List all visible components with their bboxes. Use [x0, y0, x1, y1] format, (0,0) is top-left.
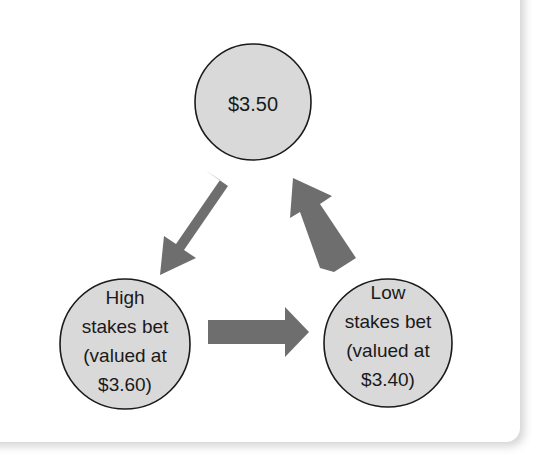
node-low-stakes: Low stakes bet (valued at $3.40) — [324, 279, 452, 407]
node-top-label: $3.50 — [228, 93, 278, 115]
node-high-line-1: High — [105, 287, 144, 308]
node-high-line-4: $3.60) — [98, 374, 152, 395]
node-low-line-3: (valued at — [346, 340, 430, 361]
node-high-stakes: High stakes bet (valued at $3.60) — [60, 279, 190, 409]
node-high-line-3: (valued at — [83, 345, 167, 366]
cycle-diagram: $3.50 High stakes bet (valued at $3.60) … — [0, 0, 549, 461]
node-low-line-4: $3.40) — [361, 369, 415, 390]
node-top: $3.50 — [195, 44, 311, 160]
node-high-line-2: stakes bet — [82, 316, 169, 337]
node-low-line-1: Low — [371, 282, 406, 303]
arrow-high-to-low — [208, 307, 309, 357]
node-low-line-2: stakes bet — [345, 311, 432, 332]
arrow-low-to-top — [290, 178, 356, 272]
arrow-top-to-high — [160, 170, 228, 275]
